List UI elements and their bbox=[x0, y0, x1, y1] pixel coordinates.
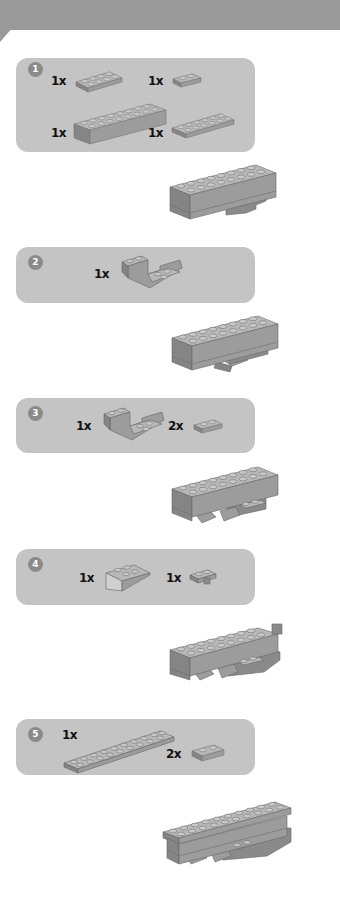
step-1-parts-panel: 1 1x 1x 1x bbox=[16, 58, 255, 152]
part-quantity: 1x bbox=[148, 74, 163, 88]
step-5-model-result bbox=[155, 792, 295, 874]
part-quantity: 2x bbox=[168, 419, 183, 433]
step-number-badge: 3 bbox=[28, 406, 43, 421]
step-number-badge: 5 bbox=[28, 727, 43, 742]
step-3-parts-panel: 3 1x 2x bbox=[16, 398, 255, 453]
step-number-badge: 2 bbox=[28, 255, 43, 270]
part-slope-inverted-double-icon bbox=[120, 252, 184, 296]
part-quantity: 1x bbox=[51, 126, 66, 140]
page-header-curl bbox=[0, 26, 14, 42]
part-slope-inverted-double-icon bbox=[102, 404, 166, 448]
part-plate-1x10-icon bbox=[60, 725, 176, 775]
part-plate-2x4-icon bbox=[74, 66, 124, 94]
part-plate-1x2-icon bbox=[190, 741, 226, 763]
page-header-band bbox=[0, 0, 340, 30]
part-quantity: 1x bbox=[51, 74, 66, 88]
step-2-model-result bbox=[170, 314, 282, 376]
step-number-badge: 4 bbox=[28, 557, 43, 572]
step-5-parts-panel: 5 1x 2x bbox=[16, 719, 255, 775]
step-1-model-result bbox=[168, 163, 280, 221]
part-quantity: 1x bbox=[94, 267, 109, 281]
step-3-model-result bbox=[170, 465, 282, 527]
part-quantity: 1x bbox=[166, 571, 181, 585]
step-4-parts-panel: 4 1x 1x bbox=[16, 549, 255, 605]
part-quantity: 1x bbox=[76, 419, 91, 433]
part-plate-1x2-icon bbox=[192, 416, 224, 434]
step-number-badge: 1 bbox=[28, 62, 43, 77]
part-plate-1x2-icon bbox=[171, 70, 203, 88]
part-quantity: 1x bbox=[79, 571, 94, 585]
part-quantity: 2x bbox=[166, 747, 181, 761]
part-plate-clip-icon bbox=[188, 565, 220, 587]
part-slope-inverted-2x3-icon bbox=[104, 559, 154, 595]
part-quantity: 1x bbox=[148, 126, 163, 140]
part-plate-2x6-icon bbox=[170, 110, 236, 140]
step-2-parts-panel: 2 1x bbox=[16, 247, 255, 303]
step-4-model-result bbox=[168, 620, 288, 690]
